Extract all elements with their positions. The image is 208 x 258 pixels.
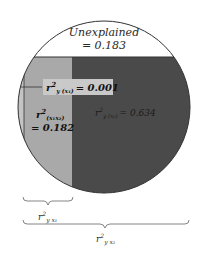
variance-diagram: Unexplained = 0.183 r2y (x₁)= 0.001 r2(x… [0,0,208,258]
shared-value: = 0.182 [31,122,74,133]
brace-r2-yx1 [23,197,73,205]
unexplained-value: = 0.183 [82,39,126,52]
x1-edge-strip [0,57,24,217]
unexplained-label: Unexplained [69,26,139,39]
brace-r2-yx1-label: r2y x₁ [38,210,57,224]
brace-r2-yx2-label: r2y x₂ [96,232,116,246]
